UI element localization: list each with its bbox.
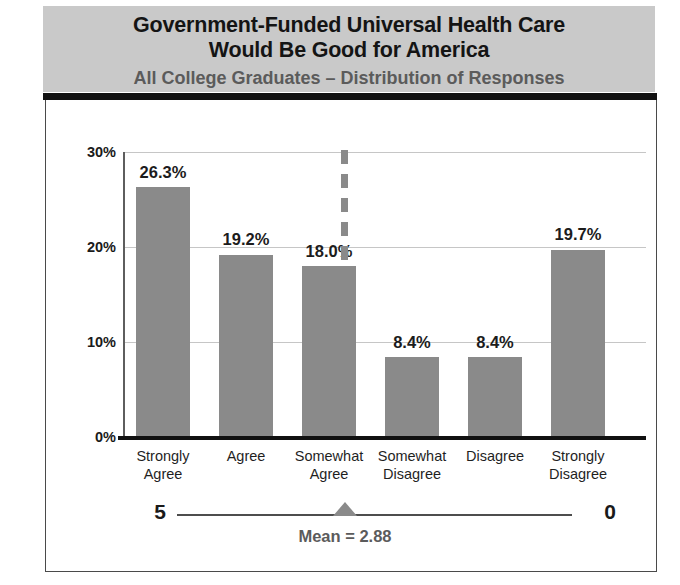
bar-value-label-somewhat-agree: 18.0% [284, 242, 374, 261]
gridline-30 [123, 152, 646, 153]
bar-somewhat-disagree[interactable] [385, 357, 439, 437]
bar-strongly-agree[interactable] [136, 187, 190, 437]
bar-value-label-somewhat-disagree: 8.4% [367, 333, 457, 352]
bar-value-label-agree: 19.2% [201, 230, 291, 249]
page-title-line-2: Would Be Good for America [43, 38, 655, 63]
chart-header-band: Government-Funded Universal Health Care … [43, 6, 655, 92]
category-label-strongly-disagree: Strongly Disagree [530, 447, 626, 483]
scale-axis-line [177, 514, 572, 516]
mean-dashed-line [341, 150, 348, 438]
category-label-line-1: Somewhat [281, 447, 377, 465]
mean-caption: Mean = 2.88 [123, 527, 567, 546]
category-label-line-1: Agree [198, 447, 294, 465]
bar-value-label-strongly-disagree: 19.7% [533, 225, 623, 244]
category-label-line-2: Agree [115, 465, 211, 483]
category-label-strongly-agree: Strongly Agree [115, 447, 211, 483]
bar-agree[interactable] [219, 255, 273, 437]
category-label-line-1: Somewhat [364, 447, 460, 465]
y-tick-10: 10% [60, 334, 116, 350]
category-label-disagree: Disagree [447, 447, 543, 465]
page-title-line-1: Government-Funded Universal Health Care [43, 13, 655, 38]
y-axis-tick-labels: 30% 20% 10% 0% [54, 152, 116, 437]
y-tick-0: 0% [60, 429, 116, 445]
category-label-line-2: Disagree [530, 465, 626, 483]
category-label-line-1: Strongly [115, 447, 211, 465]
bar-value-label-disagree: 8.4% [450, 333, 540, 352]
category-label-somewhat-disagree: Somewhat Disagree [364, 447, 460, 483]
bar-disagree[interactable] [468, 357, 522, 437]
category-label-line-1: Strongly [530, 447, 626, 465]
plot-area: 26.3% 19.2% 18.0% 8.4% 8.4% 19.7% [123, 152, 646, 437]
category-label-somewhat-agree: Somewhat Agree [281, 447, 377, 483]
category-label-line-2: Disagree [364, 465, 460, 483]
bar-strongly-disagree[interactable] [551, 250, 605, 437]
x-axis-category-labels: Strongly Agree Agree Somewhat Agree Some… [123, 447, 646, 495]
y-tick-20: 20% [60, 239, 116, 255]
mean-marker-triangle-icon [333, 502, 357, 516]
page-subtitle: All College Graduates – Distribution of … [43, 66, 655, 90]
header-divider-rule [43, 93, 657, 100]
category-label-line-1: Disagree [447, 447, 543, 465]
category-label-line-2: Agree [281, 465, 377, 483]
x-axis-line [118, 436, 646, 440]
scale-endpoint-right: 0 [597, 500, 623, 524]
y-axis-line [123, 152, 125, 437]
y-tick-30: 30% [60, 144, 116, 160]
category-label-agree: Agree [198, 447, 294, 465]
scale-endpoint-left: 5 [147, 500, 173, 524]
bar-value-label-strongly-agree: 26.3% [118, 163, 208, 182]
